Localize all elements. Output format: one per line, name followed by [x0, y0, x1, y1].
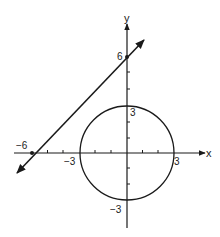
tick-label-y-pos6: 6 — [117, 51, 123, 62]
tick-label-y-neg3: −3 — [110, 204, 122, 215]
y-axis-label: y — [124, 12, 130, 24]
coordinate-diagram: x y −6 −3 3 6 3 −3 — [0, 0, 220, 237]
tick-label-x-neg3: −3 — [64, 156, 76, 167]
x-axis — [14, 150, 205, 153]
x-axis-label: x — [206, 147, 212, 159]
point-y-intercept — [125, 55, 129, 59]
tick-label-x-neg6: −6 — [16, 140, 28, 151]
point-x-intercept — [30, 151, 34, 155]
tick-label-x-pos3: 3 — [174, 156, 180, 167]
tick-label-y-pos3: 3 — [130, 107, 136, 118]
